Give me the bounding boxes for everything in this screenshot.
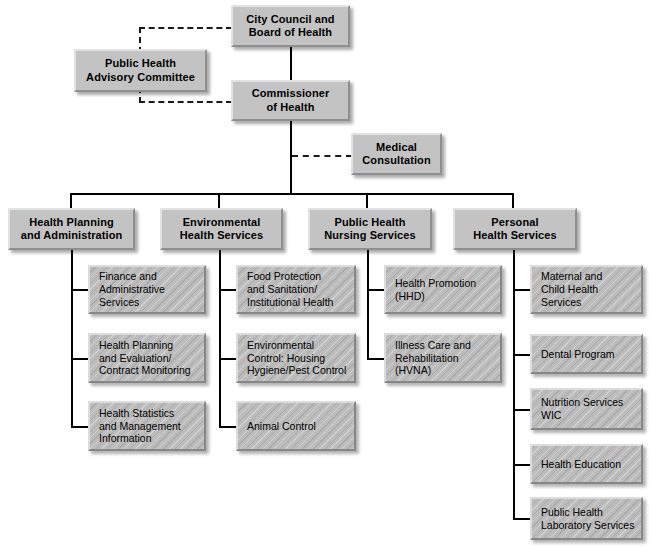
division-label-1: EnvironmentalHealth Services bbox=[162, 216, 281, 243]
box-commissioner-label: Commissionerof Health bbox=[233, 87, 348, 114]
unit-maternal-and-child-health-services[interactable]: Maternal andChild HealthServices bbox=[530, 265, 643, 314]
unit-label-1-2: Animal Control bbox=[247, 420, 350, 433]
stub-column-1-unit-1 bbox=[71, 358, 89, 360]
unit-dental-program[interactable]: Dental Program bbox=[530, 334, 643, 374]
division-drop-1 bbox=[70, 193, 72, 209]
unit-label-0-1: Health Planningand Evaluation/Contract M… bbox=[99, 339, 200, 377]
unit-label-2-0: Health Promotion(HHD) bbox=[395, 277, 496, 303]
unit-environmental-control-housing-hygiene-pest-control[interactable]: EnvironmentalControl: HousingHygiene/Pes… bbox=[236, 333, 356, 383]
unit-health-statistics-and-management-information[interactable]: Health Statisticsand ManagementInformati… bbox=[88, 401, 206, 451]
stub-column-4-unit-1 bbox=[513, 354, 531, 356]
connector-commissioner-trunk bbox=[290, 120, 292, 194]
box-personal-health-services[interactable]: PersonalHealth Services bbox=[453, 208, 577, 250]
spine-column-2 bbox=[219, 250, 221, 428]
unit-health-promotion-hhd[interactable]: Health Promotion(HHD) bbox=[384, 265, 502, 314]
connector-council-to-commissioner bbox=[290, 47, 292, 82]
stub-column-2-unit-0 bbox=[219, 289, 237, 291]
unit-label-0-0: Finance andAdministrativeServices bbox=[99, 270, 200, 308]
stub-column-1-unit-0 bbox=[71, 289, 89, 291]
box-advisory-committee-label: Public HealthAdvisory Committee bbox=[76, 57, 205, 84]
unit-animal-control[interactable]: Animal Control bbox=[236, 401, 356, 451]
unit-label-3-3: Health Education bbox=[541, 458, 637, 471]
spine-column-1 bbox=[71, 250, 73, 428]
box-city-council-label: City Council andBoard of Health bbox=[233, 13, 348, 40]
box-environmental-health-services[interactable]: EnvironmentalHealth Services bbox=[160, 208, 283, 250]
box-city-council-and-board-of-health[interactable]: City Council andBoard of Health bbox=[231, 5, 350, 47]
unit-label-2-1: Illness Care andRehabilitation(HVNA) bbox=[395, 339, 496, 377]
stub-column-4-unit-2 bbox=[513, 409, 531, 411]
division-drop-4 bbox=[512, 193, 514, 209]
unit-label-3-2: Nutrition ServicesWIC bbox=[541, 396, 637, 422]
box-health-planning-and-administration[interactable]: Health Planningand Administration bbox=[8, 208, 135, 250]
unit-label-3-0: Maternal andChild HealthServices bbox=[541, 270, 637, 308]
stub-column-2-unit-1 bbox=[219, 358, 237, 360]
connector-advisory-to-council bbox=[139, 27, 232, 29]
stub-column-3-unit-1 bbox=[367, 358, 385, 360]
division-label-2: Public HealthNursing Services bbox=[310, 216, 430, 243]
box-medical-consultation-label: MedicalConsultation bbox=[353, 141, 440, 168]
division-bus bbox=[70, 193, 514, 195]
spine-column-3 bbox=[367, 250, 369, 360]
connector-medical-consultation bbox=[292, 155, 352, 157]
division-drop-2 bbox=[218, 193, 220, 209]
unit-label-1-0: Food Protectionand Sanitation/Institutio… bbox=[247, 270, 350, 308]
box-public-health-nursing-services[interactable]: Public HealthNursing Services bbox=[308, 208, 432, 250]
stub-column-4-unit-3 bbox=[513, 464, 531, 466]
division-drop-3 bbox=[366, 193, 368, 209]
unit-nutrition-services-wic[interactable]: Nutrition ServicesWIC bbox=[530, 388, 643, 430]
unit-food-protection-and-sanitation-institutional-health[interactable]: Food Protectionand Sanitation/Institutio… bbox=[236, 265, 356, 314]
unit-label-3-4: Public HealthLaboratory Services bbox=[541, 506, 637, 532]
unit-label-0-2: Health Statisticsand ManagementInformati… bbox=[99, 407, 200, 445]
unit-label-1-1: EnvironmentalControl: HousingHygiene/Pes… bbox=[247, 339, 350, 377]
unit-health-education[interactable]: Health Education bbox=[530, 444, 643, 484]
unit-label-3-1: Dental Program bbox=[541, 348, 637, 361]
division-label-0: Health Planningand Administration bbox=[10, 216, 133, 243]
division-label-3: PersonalHealth Services bbox=[455, 216, 575, 243]
org-chart: City Council andBoard of Health Public H… bbox=[0, 0, 653, 548]
box-public-health-advisory-committee[interactable]: Public HealthAdvisory Committee bbox=[74, 49, 207, 92]
box-medical-consultation[interactable]: MedicalConsultation bbox=[351, 133, 442, 175]
connector-advisory-to-commissioner bbox=[139, 101, 232, 103]
unit-health-planning-and-evaluation-contract-monitoring[interactable]: Health Planningand Evaluation/Contract M… bbox=[88, 333, 206, 383]
box-commissioner-of-health[interactable]: Commissionerof Health bbox=[231, 80, 350, 121]
unit-illness-care-and-rehabilitation-hvna[interactable]: Illness Care andRehabilitation(HVNA) bbox=[384, 333, 502, 383]
unit-finance-and-administrative-services[interactable]: Finance andAdministrativeServices bbox=[88, 265, 206, 314]
stub-column-2-unit-2 bbox=[219, 426, 237, 428]
unit-public-health-laboratory-services[interactable]: Public HealthLaboratory Services bbox=[530, 497, 643, 540]
stub-column-4-unit-0 bbox=[513, 289, 531, 291]
stub-column-3-unit-0 bbox=[367, 289, 385, 291]
stub-column-1-unit-2 bbox=[71, 426, 89, 428]
stub-column-4-unit-4 bbox=[513, 518, 531, 520]
